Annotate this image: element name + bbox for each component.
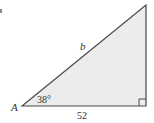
angle-label: 38° xyxy=(37,94,51,105)
base-label: 52 xyxy=(77,110,87,121)
triangle-shape xyxy=(22,5,146,106)
hypotenuse-label: b xyxy=(80,40,86,52)
edge-mark xyxy=(0,9,2,13)
vertex-label-a: A xyxy=(10,101,18,113)
triangle-diagram: A 38° b 52 xyxy=(0,0,154,123)
